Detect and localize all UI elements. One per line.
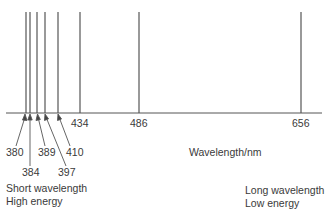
label-656: 656 (292, 117, 310, 129)
arrowhead-380-icon (23, 114, 28, 121)
label-410: 410 (66, 146, 84, 158)
arrow-380 (16, 117, 25, 146)
label-434: 434 (71, 117, 89, 129)
pointer-arrows (16, 114, 70, 166)
label-384: 384 (22, 166, 40, 178)
label-397: 397 (58, 166, 76, 178)
long-wavelength-note: Long wavelength Low energy (245, 184, 324, 209)
label-389: 389 (38, 146, 56, 158)
long-wavelength-text: Long wavelength (245, 184, 324, 197)
label-380: 380 (6, 146, 24, 158)
low-energy-text: Low energy (245, 197, 324, 210)
arrow-397 (46, 117, 66, 166)
arrowhead-410-icon (58, 114, 62, 121)
high-energy-text: High energy (6, 195, 87, 208)
spectral-lines (26, 12, 301, 113)
short-wavelength-text: Short wavelength (6, 182, 87, 195)
axis-label: Wavelength/nm (189, 146, 262, 158)
arrowhead-389-icon (36, 114, 40, 121)
short-wavelength-note: Short wavelength High energy (6, 182, 87, 207)
label-486: 486 (130, 117, 148, 129)
arrow-389 (38, 117, 45, 146)
arrow-410 (59, 117, 70, 146)
arrowhead-384-icon (28, 114, 32, 120)
arrowhead-397-icon (45, 114, 49, 121)
